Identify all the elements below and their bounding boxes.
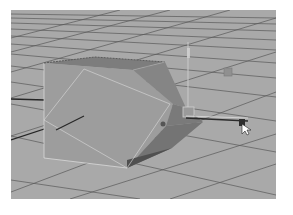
pivot-handle-icon[interactable] — [183, 107, 194, 117]
move-manipulator-icon[interactable] — [224, 68, 232, 76]
3d-viewport[interactable] — [11, 10, 276, 199]
component-point-icon — [161, 122, 166, 127]
